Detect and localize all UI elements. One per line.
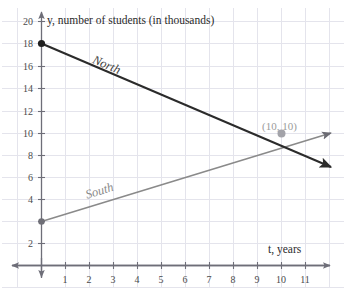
- x-tick-label-9: 9: [249, 274, 265, 285]
- y-tick-label-10: 10: [13, 128, 33, 139]
- series-line-south: [38, 133, 331, 225]
- y-tick-label-20: 20: [13, 16, 33, 27]
- south-start-point: [38, 218, 45, 225]
- y-axis-title: y, number of students (in thousands): [47, 14, 214, 26]
- x-tick-label-7: 7: [201, 274, 217, 285]
- y-tick-label-18: 18: [13, 38, 33, 49]
- x-axis-title: t, years: [268, 243, 301, 255]
- chart-canvas: y, number of students (in thousands) t, …: [0, 0, 346, 305]
- x-tick-label-5: 5: [153, 274, 169, 285]
- x-tick-label-6: 6: [177, 274, 193, 285]
- y-tick-label-12: 12: [13, 106, 33, 117]
- plot-svg: [0, 0, 346, 305]
- y-tick-label-16: 16: [13, 61, 33, 72]
- y-tick-label-8: 8: [13, 150, 33, 161]
- x-tick-label-10: 10: [273, 274, 289, 285]
- y-tick-label-14: 14: [13, 83, 33, 94]
- y-axis: [38, 12, 45, 278]
- x-tick-label-1: 1: [57, 274, 73, 285]
- intersection-annotation-label: (10, 10): [262, 120, 297, 132]
- x-tick-label-8: 8: [225, 274, 241, 285]
- x-tick-label-4: 4: [129, 274, 145, 285]
- y-tick-label-4: 4: [13, 194, 33, 205]
- north-start-point: [38, 40, 45, 47]
- x-tick-label-11: 11: [297, 274, 313, 285]
- y-tick-label-2: 2: [13, 238, 33, 249]
- x-axis: [12, 262, 330, 269]
- x-tick-label-3: 3: [105, 274, 121, 285]
- series-line-north: [38, 40, 331, 167]
- y-tick-label-6: 6: [13, 172, 33, 183]
- x-tick-label-2: 2: [81, 274, 97, 285]
